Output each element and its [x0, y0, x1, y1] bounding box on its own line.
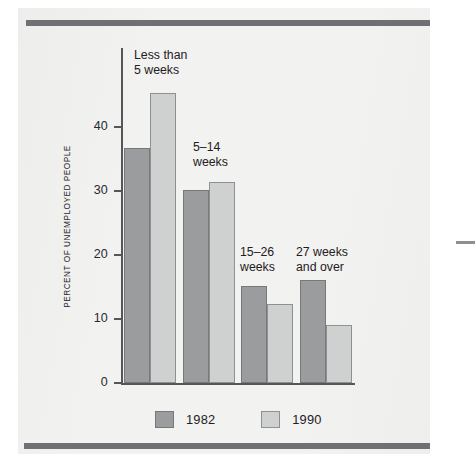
- y-axis-tick-label: 0: [0, 375, 108, 389]
- bar-1990-group-0: [150, 93, 176, 383]
- legend-item-1990: 1990: [261, 411, 321, 428]
- legend-label-1982: 1982: [186, 412, 215, 427]
- bar-1982-group-2: [241, 286, 267, 383]
- chart-page: PERCENT OF UNEMPLOYED PEOPLE 010203040 L…: [0, 0, 476, 462]
- y-axis-tick: [114, 126, 122, 128]
- bar-1990-group-2: [267, 304, 293, 383]
- y-axis-tick-label: 20: [0, 247, 108, 261]
- legend-swatch-1990: [261, 411, 280, 428]
- group-label-0: Less than 5 weeks: [134, 48, 187, 77]
- legend-item-1982: 1982: [155, 411, 215, 428]
- y-axis-tick: [114, 190, 122, 192]
- y-axis-tick: [114, 382, 122, 384]
- y-axis-tick-label: 40: [0, 119, 108, 133]
- group-label-3: 27 weeks and over: [296, 245, 348, 274]
- x-axis-line: [121, 383, 355, 385]
- bar-1982-group-3: [300, 280, 326, 383]
- chart-legend: 19821990: [155, 411, 322, 428]
- y-axis-tick: [114, 254, 122, 256]
- y-axis-tick-label: 10: [0, 311, 108, 325]
- bar-1982-group-1: [183, 190, 209, 383]
- bar-1982-group-0: [124, 148, 150, 383]
- legend-label-1990: 1990: [292, 412, 321, 427]
- group-label-1: 5–14 weeks: [193, 140, 228, 169]
- legend-swatch-1982: [155, 411, 174, 428]
- y-axis-tick-label: 30: [0, 183, 108, 197]
- group-label-2: 15–26 weeks: [240, 245, 275, 274]
- y-axis-tick: [114, 318, 122, 320]
- bar-1990-group-1: [209, 182, 235, 383]
- y-axis-title: PERCENT OF UNEMPLOYED PEOPLE: [63, 137, 72, 317]
- bar-1990-group-3: [326, 325, 352, 383]
- plot-area: PERCENT OF UNEMPLOYED PEOPLE 010203040 L…: [0, 0, 476, 462]
